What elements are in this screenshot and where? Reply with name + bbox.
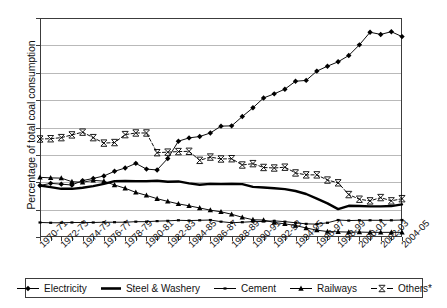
legend-item-railways: Railways xyxy=(289,283,357,294)
data-point-diamond xyxy=(48,181,53,186)
legend-symbol-diamond-icon xyxy=(16,283,40,294)
data-point-dash xyxy=(241,221,244,223)
data-point-dash xyxy=(223,287,226,289)
data-point-diamond xyxy=(197,134,202,139)
data-point-dash xyxy=(156,220,159,222)
legend-item-steel-washery: Steel & Washery xyxy=(100,283,200,294)
data-point-x xyxy=(324,177,330,183)
legend-item-others: Others* xyxy=(370,283,432,294)
data-point-x xyxy=(335,180,341,186)
data-point-x xyxy=(314,172,320,178)
legend-label: Electricity xyxy=(44,283,87,294)
data-point-dash xyxy=(220,221,223,223)
data-point-diamond xyxy=(133,161,138,166)
data-point-x xyxy=(197,157,203,163)
legend-item-cement: Cement xyxy=(213,283,276,294)
data-point-dash xyxy=(39,221,42,223)
legend-symbol-none-icon xyxy=(100,283,122,294)
data-point-diamond xyxy=(144,166,149,171)
legend-symbol-x-icon xyxy=(370,283,394,294)
plot-area: 01020304050607080 xyxy=(40,18,402,237)
data-point-dash xyxy=(305,223,308,225)
data-point-x xyxy=(388,198,394,204)
data-point-x xyxy=(69,132,75,138)
data-point-diamond xyxy=(272,91,277,96)
data-point-diamond xyxy=(59,181,64,186)
data-point-diamond xyxy=(176,138,181,143)
data-point-dash xyxy=(113,221,116,223)
data-point-x xyxy=(79,129,85,135)
coal-consumption-chart: Percentage of total coal consumption 010… xyxy=(0,0,447,308)
data-point-x xyxy=(378,194,384,200)
data-point-diamond xyxy=(335,59,340,64)
series-layer xyxy=(40,18,402,237)
y-axis-title: Percentage of total coal consumption xyxy=(25,20,37,230)
data-point-dash xyxy=(390,219,393,221)
data-point-diamond xyxy=(112,169,117,174)
data-point-diamond xyxy=(218,123,223,128)
data-point-x xyxy=(379,285,385,291)
chart-legend: ElectricitySteel & WasheryCementRailways… xyxy=(25,278,423,298)
data-point-dash xyxy=(134,221,137,223)
data-point-x xyxy=(356,196,362,202)
legend-label: Railways xyxy=(317,283,357,294)
data-point-dash xyxy=(347,219,350,221)
legend-label: Cement xyxy=(241,283,276,294)
series-cement xyxy=(39,219,404,225)
data-point-dash xyxy=(49,222,52,224)
data-point-dash xyxy=(326,222,329,224)
data-point-dash xyxy=(369,219,372,221)
data-point-diamond xyxy=(399,34,404,39)
data-point-dash xyxy=(177,219,180,221)
data-point-diamond xyxy=(378,32,383,37)
data-point-dash xyxy=(198,219,201,221)
data-point-dash xyxy=(70,221,73,223)
data-point-diamond xyxy=(186,135,191,140)
series-line xyxy=(40,132,402,201)
data-point-diamond xyxy=(122,165,127,170)
data-point-diamond xyxy=(208,130,213,135)
legend-label: Others* xyxy=(398,283,432,294)
legend-label: Steel & Washery xyxy=(126,283,200,294)
data-point-diamond xyxy=(389,29,394,34)
data-point-diamond xyxy=(325,63,330,68)
series-electricity xyxy=(37,29,404,188)
legend-item-electricity: Electricity xyxy=(16,283,87,294)
series-steel-washery xyxy=(40,181,402,209)
data-point-dash xyxy=(92,221,95,223)
data-point-x xyxy=(101,140,107,146)
data-point-diamond xyxy=(101,173,106,178)
data-point-x xyxy=(346,191,352,197)
data-point-diamond xyxy=(25,285,30,290)
series-line xyxy=(40,181,402,209)
series-others xyxy=(37,129,405,204)
legend-symbol-dash-icon xyxy=(213,283,237,294)
data-point-x xyxy=(90,134,96,140)
legend-symbol-triangle-icon xyxy=(289,283,313,294)
